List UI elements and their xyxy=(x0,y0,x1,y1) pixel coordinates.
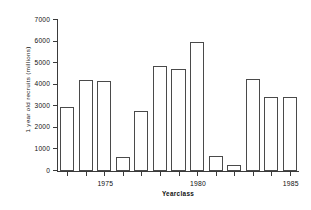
x-axis-tick xyxy=(216,171,217,176)
bar xyxy=(97,81,111,171)
y-axis-tick: 2000 xyxy=(53,127,58,128)
plot-area: 0100020003000400050006000700019751980198… xyxy=(57,20,299,172)
y-axis-tick-label: 3000 xyxy=(35,102,50,109)
x-axis-tick-label: 1980 xyxy=(190,180,206,187)
bar xyxy=(116,157,130,171)
x-axis-tick xyxy=(141,171,142,176)
bar xyxy=(264,97,278,171)
y-axis-tick: 7000 xyxy=(53,19,58,20)
x-axis-tick xyxy=(160,171,161,176)
y-axis-tick-label: 0 xyxy=(46,167,50,174)
y-axis-tick-label: 7000 xyxy=(35,16,50,23)
bar xyxy=(171,69,185,171)
y-axis-tick: 4000 xyxy=(53,84,58,85)
y-axis-tick-label: 4000 xyxy=(35,80,50,87)
x-axis-tick xyxy=(179,171,180,176)
bar xyxy=(134,111,148,171)
bar-chart-figure: 1 year old recruits (millions) 010002000… xyxy=(0,0,311,210)
x-axis-tick-label: 1985 xyxy=(283,180,299,187)
bar xyxy=(190,42,204,171)
bar xyxy=(283,97,297,171)
x-axis-label: Yearclass xyxy=(57,190,299,197)
y-axis-tick-label: 6000 xyxy=(35,37,50,44)
bar xyxy=(246,79,260,171)
y-axis-tick: 3000 xyxy=(53,105,58,106)
y-axis-tick: 5000 xyxy=(53,62,58,63)
x-axis-tick: 1975 xyxy=(104,171,105,176)
x-axis-tick xyxy=(67,171,68,176)
y-axis-tick-label: 5000 xyxy=(35,59,50,66)
bar xyxy=(153,66,167,171)
y-axis-tick: 1000 xyxy=(53,148,58,149)
y-axis-tick: 6000 xyxy=(53,41,58,42)
y-axis-label: 1 year old recruits (millions) xyxy=(24,10,31,170)
x-axis-tick xyxy=(271,171,272,176)
x-axis-tick xyxy=(234,171,235,176)
x-axis-tick-label: 1975 xyxy=(97,180,113,187)
x-axis-tick: 1985 xyxy=(290,171,291,176)
bar xyxy=(60,107,74,171)
y-axis-tick: 0 xyxy=(53,170,58,171)
bar xyxy=(79,80,93,171)
x-axis-tick xyxy=(123,171,124,176)
x-axis-tick xyxy=(253,171,254,176)
x-axis-tick: 1980 xyxy=(197,171,198,176)
y-axis-tick-label: 1000 xyxy=(35,145,50,152)
bar xyxy=(209,156,223,171)
y-axis-tick-label: 2000 xyxy=(35,123,50,130)
x-axis-tick xyxy=(86,171,87,176)
